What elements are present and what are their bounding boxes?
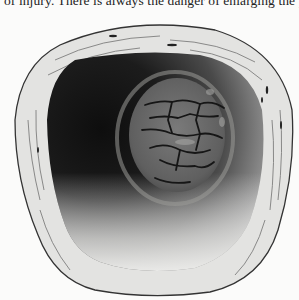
medical-illustration: [0, 0, 299, 300]
book-page: of injury. There is always the danger of…: [0, 0, 299, 300]
cross-section-figure: [0, 0, 299, 300]
